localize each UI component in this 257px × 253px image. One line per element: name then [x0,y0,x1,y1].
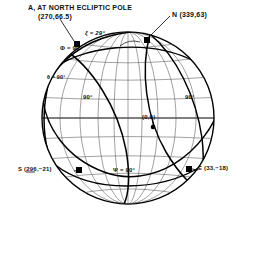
left-90-label: 90° [83,94,93,100]
pole-title-line2: (270,66.5) [38,13,72,20]
right-90-label: 90° [185,94,195,100]
point-s-label: S (296,−21) [18,166,52,172]
sphere-diagram: A, AT NORTH ECLIPTIC POLE (270,66.5) N (… [0,0,257,253]
origin-label: (0,0) [142,114,155,120]
sphere-svg [0,0,257,253]
pole-title-line1: A, AT NORTH ECLIPTIC POLE [28,4,132,11]
leader-line-n [148,16,170,38]
point-e-label: E (33,−18) [198,165,228,171]
node-n-label: N (339,63) [172,11,207,18]
phi-90-label: Φ = 90° [60,45,82,51]
sphere-interior [30,32,226,204]
leader-line-a [60,19,74,41]
xi-angle-label: ξ = 29° [85,30,105,36]
theta-90-label: θ = 90° [47,75,66,80]
marker-point-n[interactable] [145,38,150,43]
marker-point-e[interactable] [187,167,192,172]
psi-90-label: Ψ = 90° [113,167,135,173]
